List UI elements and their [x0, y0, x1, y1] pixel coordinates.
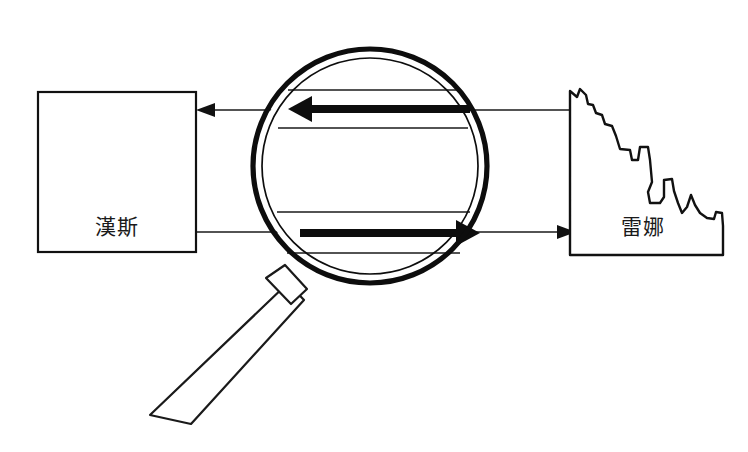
magnifier-handle[interactable] [150, 265, 307, 424]
node-left-party[interactable]: 漢斯 [38, 92, 196, 252]
left-party-label: 漢斯 [95, 215, 139, 239]
magnifier-lens[interactable] [253, 49, 487, 283]
magnifier-handle-shaft[interactable] [150, 283, 304, 424]
reply-channel-arrowhead-icon [196, 103, 215, 117]
node-right-party[interactable]: 雷娜 [570, 89, 723, 255]
right-party-label: 雷娜 [621, 215, 665, 239]
lens-glass-fill [256, 52, 484, 280]
diagram-canvas: 漢斯 雷娜 [0, 0, 748, 452]
communication-diagram: 漢斯 雷娜 [0, 0, 748, 452]
